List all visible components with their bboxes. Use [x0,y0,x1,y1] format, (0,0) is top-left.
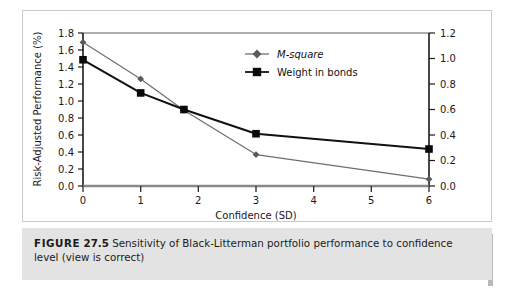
y-tick-label-left-5: 1.0 [58,96,74,107]
series-m-square [80,39,433,183]
figure-caption-label: FIGURE [34,237,80,249]
line-chart: 0.0 0.2 0.4 0.6 0.8 1.0 1.2 1.4 1.6 1.8 … [23,11,493,223]
y-axis-left-title: Risk-Adjusted Performance (%) [32,31,43,186]
y-tick-label-right-0: 0.0 [440,181,456,192]
data-point-square [180,106,188,114]
legend-entry-weight-in-bonds[interactable]: Weight in bonds [245,67,358,78]
figure-container: 0.0 0.2 0.4 0.6 0.8 1.0 1.2 1.4 1.6 1.8 … [0,0,507,290]
data-point-diamond [426,176,433,183]
series-line [83,42,429,179]
y-axis-right: 0.0 0.2 0.4 0.6 0.8 1.0 1.2 [429,28,456,192]
y-tick-label-left-2: 0.4 [58,147,74,158]
y-axis-right-ticks [429,33,435,186]
y-tick-label-left-4: 0.8 [58,113,74,124]
figure-caption-number: 27.5 [84,237,109,249]
data-point-square [137,89,145,97]
y-tick-label-right-4: 0.8 [440,79,456,90]
x-tick-label-6: 6 [426,195,432,206]
x-axis-title: Confidence (SD) [215,210,296,221]
data-point-diamond [80,39,87,46]
x-tick-label-5: 5 [368,195,374,206]
y-tick-label-right-6: 1.2 [440,28,456,39]
y-tick-label-left-6: 1.2 [58,79,74,90]
x-tick-label-3: 3 [253,195,259,206]
y-tick-label-right-2: 0.4 [440,130,456,141]
x-tick-label-1: 1 [138,195,144,206]
x-tick-label-4: 4 [311,195,317,206]
y-tick-label-right-3: 0.6 [440,104,456,115]
y-tick-label-left-7: 1.4 [58,62,74,73]
chart-legend: M-square Weight in bonds [245,49,358,78]
y-tick-label-right-5: 1.0 [440,53,456,64]
y-tick-label-left-0: 0.0 [58,181,74,192]
diamond-marker-icon [253,50,262,59]
y-tick-label-left-1: 0.2 [58,164,74,175]
data-point-square [425,145,433,153]
y-tick-label-right-1: 0.2 [440,155,456,166]
figure-caption: FIGURE 27.5 Sensitivity of Black-Litterm… [34,237,464,264]
square-marker-icon [253,68,261,76]
x-tick-label-0: 0 [80,195,86,206]
data-point-square [252,130,260,138]
series-layer [79,39,433,183]
y-tick-label-left-9: 1.8 [58,28,74,39]
data-point-square [79,56,87,64]
legend-label-msquare: M-square [277,49,324,60]
y-tick-label-left-3: 0.6 [58,130,74,141]
caption-band: FIGURE 27.5 Sensitivity of Black-Litterm… [22,228,492,280]
data-point-diamond [253,151,260,158]
y-tick-label-left-8: 1.6 [58,45,74,56]
chart-panel: 0.0 0.2 0.4 0.6 0.8 1.0 1.2 1.4 1.6 1.8 … [22,10,492,222]
y-axis-left: 0.0 0.2 0.4 0.6 0.8 1.0 1.2 1.4 1.6 1.8 [58,28,83,192]
x-tick-label-2: 2 [195,195,201,206]
legend-entry-msquare[interactable]: M-square [245,49,324,60]
legend-label-weight-in-bonds: Weight in bonds [277,67,358,78]
x-axis: 0 1 2 3 4 5 6 [80,186,432,206]
